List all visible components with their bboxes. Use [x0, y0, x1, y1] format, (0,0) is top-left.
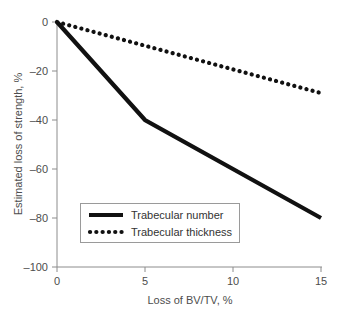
- y-tick-label-100: –100: [24, 261, 48, 273]
- series-trabecular-number: [57, 22, 321, 218]
- x-axis-ticks: 0 5 10 15: [54, 267, 327, 287]
- x-tick-label-0: 0: [54, 275, 60, 287]
- y-tick-label-20: –20: [30, 65, 48, 77]
- chart-legend: Trabecular number Trabecular thickness: [81, 204, 240, 243]
- line-chart: 0 –20 –40 –60 –80 –100 0 5 10 15 Loss of…: [0, 0, 342, 313]
- x-tick-label-5: 5: [142, 275, 148, 287]
- legend-label-trabecular-number: Trabecular number: [131, 209, 224, 221]
- x-tick-label-15: 15: [315, 275, 327, 287]
- y-tick-label-0: 0: [42, 16, 48, 28]
- chart-figure: 0 –20 –40 –60 –80 –100 0 5 10 15 Loss of…: [0, 0, 342, 313]
- series-trabecular-thickness: [57, 22, 321, 93]
- x-tick-label-10: 10: [227, 275, 239, 287]
- y-axis-title: Estimated loss of strength, %: [12, 73, 24, 216]
- legend-label-trabecular-thickness: Trabecular thickness: [131, 226, 233, 238]
- x-axis-title: Loss of BV/TV, %: [147, 294, 232, 306]
- y-tick-label-40: –40: [30, 114, 48, 126]
- y-tick-label-60: –60: [30, 163, 48, 175]
- y-axis-ticks: 0 –20 –40 –60 –80 –100: [24, 16, 57, 273]
- y-tick-label-80: –80: [30, 212, 48, 224]
